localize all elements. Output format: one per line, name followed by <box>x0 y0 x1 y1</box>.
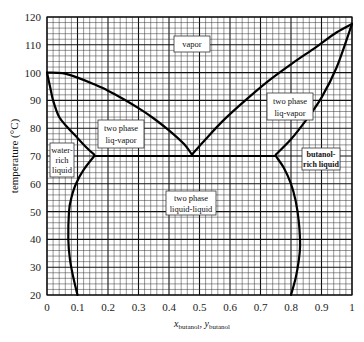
x-tick-label: 0.6 <box>223 301 237 313</box>
y-tick-label: 90 <box>30 94 42 106</box>
x-tick-label: 0.1 <box>71 301 85 313</box>
svg-text:liq-vapor: liq-vapor <box>274 108 305 118</box>
x-tick-label: 0.8 <box>284 301 298 313</box>
x-tick-label: 0.5 <box>193 301 207 313</box>
svg-text:liq-vapor: liq-vapor <box>105 135 136 145</box>
y-tick-label: 120 <box>25 11 42 23</box>
x-tick-label: 0.2 <box>101 301 115 313</box>
y-tick-label: 40 <box>30 233 42 245</box>
svg-text:two phase: two phase <box>104 123 138 133</box>
y-tick-label: 100 <box>25 67 42 79</box>
curve-bubble-curve-water-side- <box>47 73 94 155</box>
y-tick-label: 50 <box>30 206 42 218</box>
x-tick-label: 0.7 <box>254 301 268 313</box>
label-vapor: vapor <box>174 36 210 52</box>
svg-text:rich: rich <box>55 155 69 165</box>
y-tick-label: 110 <box>25 39 42 51</box>
label-two-phase-liq-vapor-right: two phase liq-vapor <box>267 93 313 120</box>
x-tick-label: 0.9 <box>315 301 329 313</box>
y-tick-label: 70 <box>30 150 42 162</box>
x-tick-label: 0 <box>44 301 50 313</box>
svg-text:water-: water- <box>51 145 73 155</box>
label-water-rich-liquid: water- rich liquid <box>50 143 74 177</box>
x-axis-title: xbutanol, ybutanol <box>173 318 230 331</box>
svg-text:two phase: two phase <box>273 96 307 106</box>
y-tick-label: 30 <box>30 261 42 273</box>
y-axis-title: temperature (°C) <box>8 118 21 193</box>
curve-butanol-rich-solubility <box>276 156 300 295</box>
x-tick-label: 0.3 <box>132 301 146 313</box>
y-axis-ticks: 2030405060708090100110120 <box>25 11 42 301</box>
y-tick-label: 80 <box>30 122 42 134</box>
svg-text:butanol-: butanol- <box>307 150 336 159</box>
phase-diagram-chart: 2030405060708090100110120 00.10.20.30.40… <box>0 0 364 342</box>
label-butanol-rich-liquid: butanol- rich liquid <box>302 148 340 170</box>
svg-text:liquid: liquid <box>52 165 73 175</box>
y-tick-label: 20 <box>30 289 42 301</box>
x-tick-label: 1 <box>349 301 355 313</box>
svg-text:vapor: vapor <box>182 39 202 49</box>
svg-text:rich liquid: rich liquid <box>303 160 339 169</box>
y-tick-label: 60 <box>30 178 42 190</box>
label-two-phase-liq-vapor-left: two phase liq-vapor <box>98 120 144 148</box>
x-tick-label: 0.4 <box>162 301 176 313</box>
svg-text:liquid-liquid: liquid-liquid <box>170 204 213 214</box>
label-two-phase-liquid-liquid: two phase liquid-liquid <box>166 191 216 215</box>
svg-text:two phase: two phase <box>174 193 208 203</box>
x-axis-ticks: 00.10.20.30.40.50.60.70.80.91 <box>44 301 355 313</box>
